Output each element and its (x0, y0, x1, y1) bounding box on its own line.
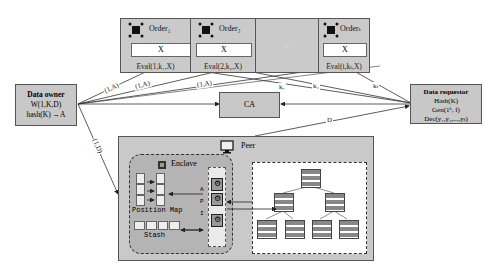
order-input: X (196, 43, 252, 57)
ca-node[interactable]: CA (219, 92, 280, 118)
edge-label-req-ordert: kₜ (372, 82, 379, 90)
data-requestor-line1: Hash(K) (411, 97, 481, 106)
order-title: Orderₜ (340, 24, 361, 33)
order-node-t[interactable]: Orderₜ X Eval(t,kₜ,X) (318, 18, 370, 73)
order-input: X (323, 43, 367, 57)
peer-container: Peer Enclave Position Map Stash A P I ⚙ … (118, 136, 374, 261)
data-requestor-title: Data requestor (411, 88, 481, 97)
order-node-2[interactable]: Order₂ X Eval(2,k₂,X) (190, 18, 256, 73)
processor-icon (128, 22, 144, 38)
data-owner-title: Data owner (16, 90, 76, 100)
edge-label-req-order2: k₂ (312, 82, 320, 90)
ca-label: CA (244, 100, 255, 109)
ellipsis: ... (256, 39, 318, 49)
order-eval: Eval(2,k₂,X) (191, 62, 255, 71)
order-node-ellipsis: ... (255, 18, 319, 73)
data-owner-node[interactable]: Data owner W(1,K,D) hash(K) →A (15, 84, 77, 126)
order-eval: Eval(t,kₜ,X) (319, 62, 369, 71)
data-requestor-line3: Dec(y₁,y₂,...,yₜ) (411, 115, 481, 124)
internal-arrows (119, 137, 375, 262)
edge-label-peer-req: D (326, 116, 333, 124)
order-title: Order₂ (219, 24, 240, 33)
processor-icon (198, 22, 214, 38)
data-requestor-line2: Gen(1ᵏ, f) (411, 106, 481, 115)
order-input: X (131, 43, 191, 57)
orders-container: Order₁ X Eval(1,k₁,X) Order₂ X Eval(2,k₂… (120, 9, 370, 64)
order-eval: Eval(1,k₁,X) (121, 62, 190, 71)
data-owner-line1: W(1,K,D) (16, 100, 76, 110)
data-owner-line2: hash(K) →A (16, 110, 76, 120)
processor-icon (323, 22, 339, 38)
edge-label-req-order1: k₁ (278, 83, 286, 91)
order-node-1[interactable]: Order₁ X Eval(1,k₁,X) (120, 18, 191, 73)
data-requestor-node[interactable]: Data requestor Hash(K) Gen(1ᵏ, f) Dec(y₁… (410, 84, 482, 124)
order-title: Order₁ (149, 24, 170, 33)
